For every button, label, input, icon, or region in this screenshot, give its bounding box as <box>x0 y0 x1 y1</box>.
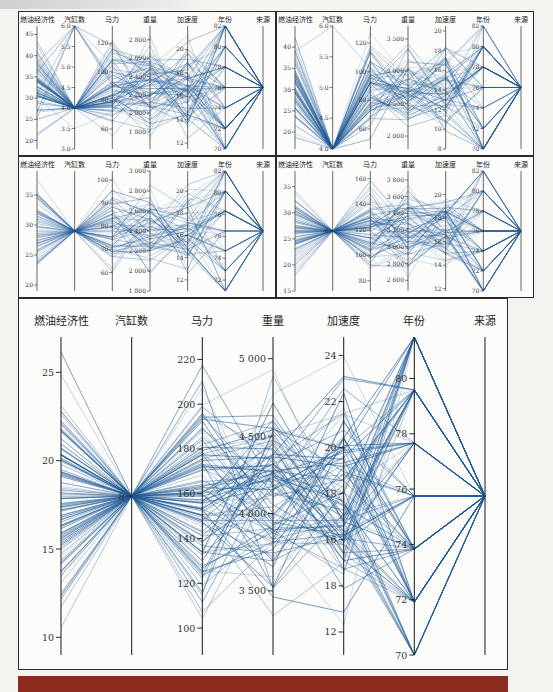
tick-label: 74 <box>395 539 407 550</box>
tick-label: 100 <box>97 68 109 75</box>
parallel-coordinates-plot: 燃油经济性202530354045汽缸数3.03.54.04.55.05.56.… <box>19 12 277 157</box>
tick-label: 2 800 <box>129 187 146 194</box>
axis-label: 来源 <box>256 15 270 24</box>
tick-label: 72 <box>214 276 222 283</box>
tick-label: 160 <box>177 488 195 499</box>
tick-label: 3.0 <box>61 145 71 152</box>
tick-label: 2 400 <box>129 73 146 80</box>
axis-label: 马力 <box>105 160 119 169</box>
tick-label: 16 <box>325 534 337 545</box>
tick-label: 20 <box>434 27 442 34</box>
tick-label: 78 <box>472 207 480 214</box>
tick-label: 10 <box>434 125 442 132</box>
tick-label: 8 <box>438 145 442 152</box>
tick-label: 120 <box>97 39 109 46</box>
tick-label: 18 <box>325 580 337 591</box>
axis-label: 马力 <box>363 160 377 169</box>
axis-3: 重量2 6002 8003 0003 2003 4003 6003 800 <box>387 161 415 291</box>
tick-label: 80 <box>359 277 367 284</box>
tick-label: 16 <box>434 238 442 245</box>
tick-label: 25 <box>25 115 33 122</box>
tick-label: 1 800 <box>129 287 146 294</box>
tick-label: 2 600 <box>387 276 404 283</box>
axis-label: 马力 <box>363 15 377 24</box>
tick-label: 72 <box>395 594 407 605</box>
tick-label: 15 <box>42 544 54 555</box>
tick-label: 40 <box>283 43 291 50</box>
axis-label: 加速度 <box>435 160 456 169</box>
axis-label: 燃油经济性 <box>20 15 55 24</box>
tick-label: 35 <box>25 191 33 198</box>
tick-label: 16 <box>176 92 184 99</box>
chart-panel-bottom-big: 燃油经济性10152025汽缸数8马力100120140160180200220… <box>18 298 508 670</box>
tick-label: 25 <box>283 235 291 242</box>
tick-label: 2 200 <box>129 247 146 254</box>
tick-label: 82 <box>472 167 480 174</box>
tick-label: 120 <box>177 578 195 589</box>
axis-label: 燃油经济性 <box>34 314 89 328</box>
tick-label: 4.5 <box>319 114 329 121</box>
tick-label: 20 <box>176 187 184 194</box>
tick-label: 60 <box>359 125 367 132</box>
axis-label: 燃油经济性 <box>20 160 55 169</box>
tick-label: 78 <box>214 63 222 70</box>
tick-label: 74 <box>214 104 222 111</box>
axis-label: 重量 <box>401 16 415 24</box>
tick-label: 82 <box>214 167 222 174</box>
axis-4: 加速度1214161820 <box>434 160 456 292</box>
tick-label: 76 <box>214 232 222 239</box>
tick-label: 76 <box>472 227 480 234</box>
tick-label: 72 <box>472 125 480 132</box>
tick-label: 3 000 <box>387 67 404 74</box>
tick-label: 12 <box>176 139 184 146</box>
tick-label: 60 <box>101 269 109 276</box>
parallel-coordinates-plot: 燃油经济性20253035汽缸数马力60708090100重量1 8002 00… <box>19 157 277 299</box>
tick-label: 5.5 <box>319 53 329 60</box>
tick-label: 4 000 <box>239 508 266 519</box>
tick-label: 70 <box>214 145 222 152</box>
tick-label: 4.0 <box>61 104 71 111</box>
tick-label: 20 <box>434 191 442 198</box>
tick-label: 3 400 <box>387 209 404 216</box>
axis-label: 来源 <box>474 314 496 328</box>
axis-label: 来源 <box>514 15 528 24</box>
axis-0: 燃油经济性20253035 <box>20 160 55 291</box>
tick-label: 100 <box>355 251 367 258</box>
tick-label: 14 <box>434 261 442 268</box>
tick-label: 12 <box>434 106 442 113</box>
tick-label: 3 000 <box>129 167 146 174</box>
axis-label: 来源 <box>256 160 270 169</box>
tick-label: 70 <box>395 650 407 661</box>
tick-label: 2 000 <box>129 109 146 116</box>
tick-label: 3 200 <box>387 226 404 233</box>
tick-label: 76 <box>214 84 222 91</box>
tick-label: 4 500 <box>239 431 266 442</box>
tick-label: 82 <box>214 22 222 29</box>
tick-label: 40 <box>25 52 33 59</box>
tick-label: 6.0 <box>319 22 329 29</box>
parallel-coordinates-plot: 燃油经济性10152025汽缸数8马力100120140160180200220… <box>19 299 509 671</box>
tick-label: 2 800 <box>387 260 404 267</box>
tick-label: 78 <box>395 428 407 439</box>
tick-label: 74 <box>472 247 480 254</box>
tick-label: 160 <box>355 175 367 182</box>
tick-label: 5.0 <box>61 63 71 70</box>
tick-label: 2 500 <box>387 100 404 107</box>
tick-label: 22 <box>325 396 337 407</box>
tick-label: 100 <box>355 68 367 75</box>
axis-label: 马力 <box>105 15 119 24</box>
tick-label: 25 <box>25 251 33 258</box>
axis-label: 燃油经济性 <box>278 160 313 169</box>
tick-label: 6.0 <box>61 22 71 29</box>
tick-label: 140 <box>177 533 195 544</box>
axis-label: 年份 <box>403 314 425 328</box>
tick-label: 76 <box>472 84 480 91</box>
tick-label: 180 <box>177 443 195 454</box>
tick-label: 80 <box>359 96 367 103</box>
tick-label: 24 <box>325 350 337 361</box>
tick-label: 100 <box>97 176 109 183</box>
parallel-coordinates-plot: 燃油经济性2025303540汽缸数4.04.55.05.56.0马力60801… <box>277 12 535 157</box>
axis-label: 汽缸数 <box>115 314 148 328</box>
tick-label: 5.0 <box>319 84 329 91</box>
tick-label: 18 <box>176 209 184 216</box>
